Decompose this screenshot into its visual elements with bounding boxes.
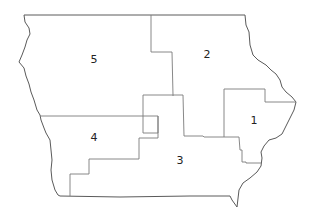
label-layer: 5 2 4 1 3 [0, 0, 314, 218]
district-label-5: 5 [91, 53, 98, 66]
district-label-4: 4 [91, 131, 98, 144]
district-label-1: 1 [251, 114, 258, 127]
district-label-2: 2 [204, 48, 211, 61]
district-label-3: 3 [177, 154, 184, 167]
